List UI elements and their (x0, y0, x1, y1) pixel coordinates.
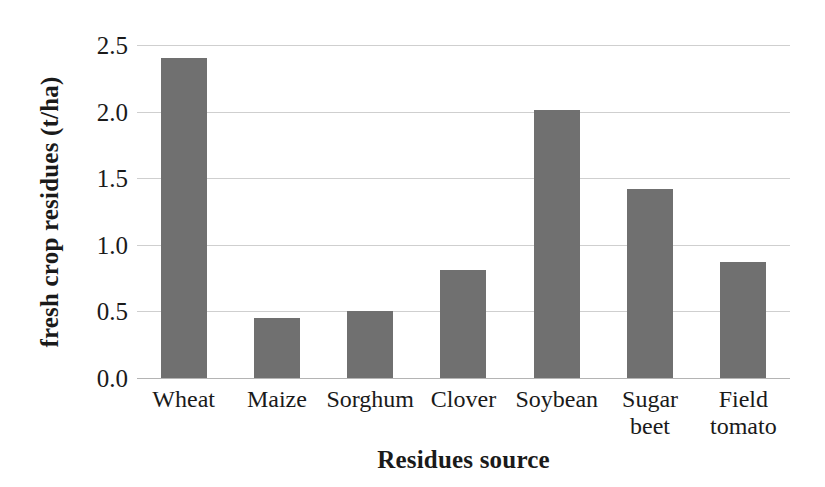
x-tick-slot: Sugar beet (603, 386, 696, 440)
x-tick-label-field-tomato: Field tomato (710, 386, 777, 439)
y-tick-label: 0.0 (60, 366, 128, 391)
x-axis-title: Residues source (137, 446, 790, 474)
bar-slot (697, 45, 790, 378)
x-tick-slot: Field tomato (697, 386, 790, 440)
x-tick-label-sugar-beet: Sugar beet (622, 386, 678, 439)
y-tick-label: 2.0 (60, 99, 128, 124)
x-tick-label-soybean: Soybean (515, 386, 598, 412)
x-tick-label-clover: Clover (431, 386, 496, 412)
y-tick-label: 2.5 (60, 33, 128, 58)
x-tick-label-wheat: Wheat (152, 386, 215, 412)
bar-maize[interactable] (254, 318, 300, 378)
bar-slot (510, 45, 603, 378)
bar-slot (417, 45, 510, 378)
bar-soybean[interactable] (534, 110, 580, 378)
x-axis-tick-labels: Wheat Maize Sorghum Clover Soybean Sugar… (137, 386, 790, 440)
x-tick-slot: Soybean (510, 386, 603, 440)
bar-slot (137, 45, 230, 378)
bar-sorghum[interactable] (347, 311, 393, 378)
bars-layer (137, 45, 790, 378)
bar-field-tomato[interactable] (720, 262, 766, 378)
plot-area (137, 45, 790, 378)
bar-slot (324, 45, 417, 378)
y-tick-label: 1.0 (60, 232, 128, 257)
bar-slot (230, 45, 323, 378)
bar-wheat[interactable] (161, 58, 207, 378)
x-tick-label-maize: Maize (247, 386, 307, 412)
bar-clover[interactable] (440, 270, 486, 378)
bar-slot (603, 45, 696, 378)
x-tick-slot: Wheat (137, 386, 230, 440)
bar-chart-figure: fresh crop residues (t/ha) 2.5 2.0 1.5 1… (0, 0, 825, 487)
y-axis-tick-labels: 2.5 2.0 1.5 1.0 0.5 0.0 (60, 45, 128, 378)
y-tick-label: 1.5 (60, 166, 128, 191)
axis-baseline (137, 378, 790, 379)
bar-sugar-beet[interactable] (627, 189, 673, 378)
x-tick-slot: Sorghum (324, 386, 417, 440)
y-tick-label: 0.5 (60, 299, 128, 324)
x-tick-label-sorghum: Sorghum (326, 386, 414, 412)
x-tick-slot: Maize (230, 386, 323, 440)
x-tick-slot: Clover (417, 386, 510, 440)
